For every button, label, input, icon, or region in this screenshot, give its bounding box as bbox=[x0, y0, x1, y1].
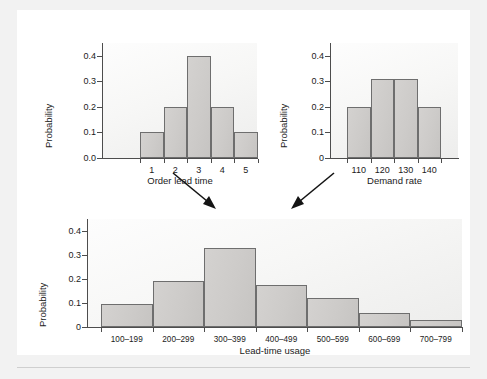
y-tick-mark bbox=[82, 279, 87, 280]
bar bbox=[153, 281, 205, 327]
arrow-right-icon bbox=[291, 173, 334, 209]
x-tick-mark bbox=[307, 328, 308, 332]
y-tick-label: 0.1 bbox=[39, 299, 81, 308]
y-tick-mark bbox=[82, 303, 87, 304]
chart-lead-time-usage: Probability 00.10.20.30.4 100–199200–299… bbox=[31, 205, 466, 355]
y-tick-mark bbox=[82, 231, 87, 232]
x-tick-mark bbox=[359, 328, 360, 332]
bar bbox=[101, 304, 153, 327]
arrow-left-icon bbox=[173, 173, 216, 209]
x-tick-mark bbox=[256, 328, 257, 332]
x-tick-mark bbox=[153, 328, 154, 332]
bar bbox=[204, 248, 256, 327]
x-tick-mark bbox=[101, 328, 102, 332]
bar bbox=[256, 285, 308, 327]
x-axis-line bbox=[87, 327, 463, 328]
bar bbox=[359, 313, 411, 327]
y-tick-label: 0 bbox=[39, 323, 81, 332]
x-tick-mark bbox=[462, 328, 463, 332]
x-tick-mark bbox=[204, 328, 205, 332]
y-tick-label: 0.2 bbox=[39, 275, 81, 284]
y-tick-label: 0.4 bbox=[39, 227, 81, 236]
x-tick-label: 700–799 bbox=[404, 335, 468, 344]
y-tick-label: 0.3 bbox=[39, 251, 81, 260]
footer-divider bbox=[17, 367, 470, 368]
y-axis-line bbox=[87, 219, 88, 328]
y-tick-mark bbox=[82, 255, 87, 256]
figure-panel: Probability 0.00.10.20.30.4 12345 Order … bbox=[17, 10, 470, 355]
bar bbox=[410, 320, 462, 327]
x-tick-mark bbox=[410, 328, 411, 332]
x-axis-label: Lead-time usage bbox=[87, 345, 463, 356]
y-tick-mark bbox=[82, 327, 87, 328]
bar bbox=[307, 298, 359, 327]
